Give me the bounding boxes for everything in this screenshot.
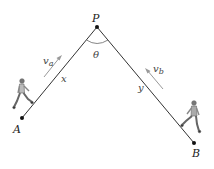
label-a: A (12, 123, 21, 136)
label-p: P (91, 12, 100, 25)
diagram-canvas: P A B θ x y va vb (0, 0, 214, 169)
label-vb: vb (153, 63, 164, 76)
label-b: B (191, 147, 200, 160)
segment-y (97, 27, 194, 143)
walker-b-figure (181, 101, 201, 133)
label-theta: θ (93, 49, 99, 60)
point-a (20, 116, 24, 120)
segment-x (22, 27, 97, 118)
label-va: va (43, 55, 54, 68)
label-y: y (137, 82, 144, 93)
label-x: x (61, 73, 67, 84)
point-p (95, 25, 99, 29)
walker-a-figure (13, 79, 34, 109)
angle-arc (87, 40, 109, 44)
point-b (192, 141, 196, 145)
